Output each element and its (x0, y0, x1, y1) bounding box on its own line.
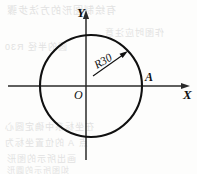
radius-dimension-label: R30 (91, 51, 114, 71)
point-a-label: A (144, 70, 153, 84)
geometry-drawing: X Y O A R30 (0, 0, 197, 174)
x-axis-label: X (182, 87, 192, 102)
x-axis (8, 83, 190, 89)
origin-label: O (74, 88, 83, 102)
figure-canvas: 有绘制图形的方法步骤作图时应注意圆的半径 R30在坐标系中确定圆心点 A 的位置… (0, 0, 197, 174)
y-axis-label: Y (77, 5, 86, 20)
